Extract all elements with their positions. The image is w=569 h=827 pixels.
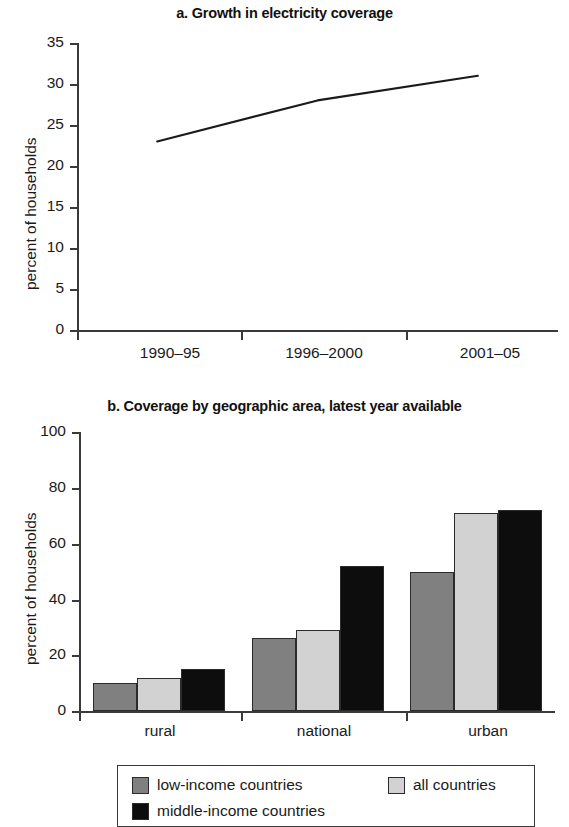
legend-label-middle-income: middle-income countries — [157, 802, 325, 820]
chart-b-x-tick-label: rural — [100, 722, 220, 740]
chart-b-x-axis — [79, 711, 555, 713]
chart-b-title: b. Coverage by geographic area, latest y… — [0, 398, 569, 414]
chart-b-y-tick — [72, 488, 80, 490]
chart-b-y-tick — [72, 432, 80, 434]
chart-b-x-tick — [241, 712, 243, 721]
chart-b-x-tick — [79, 712, 81, 721]
chart-b-x-tick-label: urban — [428, 722, 548, 740]
legend-swatch-low-income — [132, 777, 149, 794]
legend-label-all-countries: all countries — [413, 776, 496, 794]
legend-item-middle-income: middle-income countries — [132, 802, 325, 820]
chart-a-line-series — [0, 0, 569, 390]
bar-rural-all-countries — [137, 678, 181, 711]
bar-rural-middle-income-countries — [181, 669, 225, 711]
chart-b-y-tick-label: 40 — [10, 590, 66, 608]
legend-item-low-income: low-income countries — [132, 776, 303, 794]
legend-swatch-all-countries — [388, 777, 405, 794]
bar-urban-middle-income-countries — [498, 510, 542, 711]
chart-b-x-tick-label: national — [264, 722, 384, 740]
bar-national-all-countries — [296, 630, 340, 711]
chart-b-y-tick-label: 80 — [10, 478, 66, 496]
chart-b-x-tick — [406, 712, 408, 721]
bar-urban-all-countries — [454, 513, 498, 711]
chart-b-y-tick — [72, 655, 80, 657]
chart-b-y-tick — [72, 600, 80, 602]
bar-national-low-income-countries — [252, 638, 296, 711]
legend-item-all-countries: all countries — [388, 776, 496, 794]
chart-b-y-tick — [72, 544, 80, 546]
legend-label-low-income: low-income countries — [157, 776, 303, 794]
chart-b-y-tick-label: 60 — [10, 534, 66, 552]
chart-b-y-axis — [79, 432, 81, 712]
bar-national-middle-income-countries — [340, 566, 384, 711]
chart-b-y-tick-label: 100 — [10, 422, 66, 440]
chart-b-legend: low-income countries all countries middl… — [117, 765, 535, 827]
chart-b-y-tick-label: 0 — [10, 701, 66, 719]
bar-urban-low-income-countries — [410, 572, 454, 712]
bar-rural-low-income-countries — [93, 683, 137, 711]
chart-b-y-tick-label: 20 — [10, 645, 66, 663]
legend-swatch-middle-income — [132, 803, 149, 820]
